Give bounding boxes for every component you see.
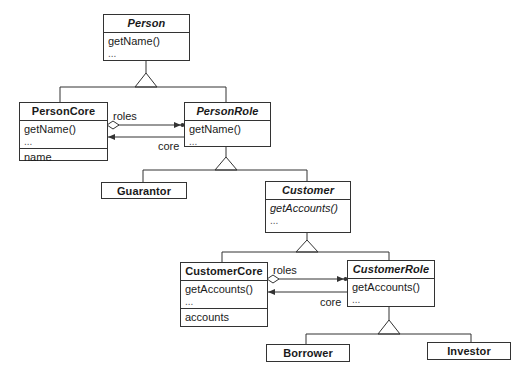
class-name: Borrower	[267, 345, 349, 362]
class-person[interactable]: Person getName() ...	[103, 14, 190, 61]
association-label-roles: roles	[113, 110, 137, 122]
operation: getName()	[189, 123, 267, 136]
arrowhead-icon	[337, 276, 344, 282]
operation: getAccounts()	[185, 283, 264, 296]
class-customer-core[interactable]: CustomerCore getAccounts() ... accounts	[180, 262, 268, 327]
arrowhead-icon	[268, 289, 275, 295]
ellipsis: ...	[108, 48, 186, 59]
operation: getName()	[108, 35, 186, 48]
association-label-core: core	[320, 296, 341, 308]
operation: getAccounts()	[270, 202, 347, 215]
arrowhead-icon	[174, 122, 181, 128]
operation: getAccounts()	[352, 281, 431, 294]
arrowhead-icon	[108, 134, 115, 140]
generalization-triangle-icon	[296, 240, 318, 252]
class-customer[interactable]: Customer getAccounts() ...	[265, 181, 351, 233]
class-customer-role[interactable]: CustomerRole getAccounts() ...	[347, 260, 435, 307]
class-guarantor[interactable]: Guarantor	[101, 182, 187, 199]
class-name: Guarantor	[102, 183, 186, 200]
class-name: CustomerRole	[348, 261, 434, 279]
generalization-triangle-icon	[135, 73, 157, 87]
operation: getName()	[24, 123, 104, 136]
class-name: CustomerCore	[181, 263, 267, 281]
ellipsis: ...	[270, 215, 347, 226]
class-name: PersonRole	[185, 103, 270, 121]
class-name: Person	[104, 15, 189, 33]
aggregation-diamond-icon	[267, 275, 279, 283]
class-name: Investor	[428, 343, 510, 360]
ellipsis: ...	[352, 294, 431, 305]
class-investor[interactable]: Investor	[427, 342, 511, 360]
class-person-core[interactable]: PersonCore getName() ... name	[19, 102, 108, 161]
class-person-role[interactable]: PersonRole getName() ...	[184, 102, 271, 147]
ellipsis: ...	[24, 136, 104, 147]
ellipsis: ...	[185, 296, 264, 307]
ellipsis: ...	[189, 136, 267, 147]
association-label-core: core	[158, 140, 179, 152]
attribute: name	[24, 151, 104, 164]
class-borrower[interactable]: Borrower	[266, 344, 350, 362]
generalization-triangle-icon	[215, 157, 237, 170]
attribute: accounts	[185, 311, 264, 324]
class-name: Customer	[266, 182, 350, 200]
aggregation-diamond-icon	[107, 121, 119, 129]
generalization-triangle-icon	[378, 320, 400, 334]
association-label-roles: roles	[273, 264, 297, 276]
class-name: PersonCore	[20, 103, 107, 121]
